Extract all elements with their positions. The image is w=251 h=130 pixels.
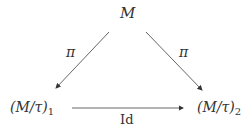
edge-label-left-pi: π xyxy=(66,45,75,59)
arrow-top-to-left xyxy=(56,32,109,88)
node-left-main: (M/τ) xyxy=(10,99,48,115)
node-right-quotient: (M/τ)2 xyxy=(197,100,241,117)
edge-label-bottom-id: Id xyxy=(120,113,133,126)
node-top-M: M xyxy=(120,6,135,21)
arrow-top-to-right xyxy=(146,32,202,90)
node-left-quotient: (M/τ)1 xyxy=(10,100,54,117)
node-right-subscript: 2 xyxy=(235,106,241,117)
node-right-main: (M/τ) xyxy=(197,99,235,115)
edge-label-right-pi: π xyxy=(179,45,188,59)
node-left-subscript: 1 xyxy=(48,106,54,117)
